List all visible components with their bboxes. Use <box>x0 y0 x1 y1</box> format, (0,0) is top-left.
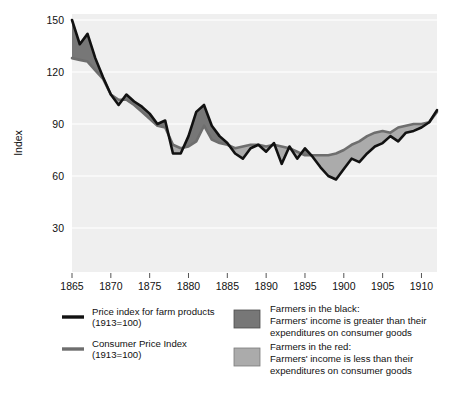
x-tick-label-1910: 1910 <box>410 280 434 292</box>
legend-label-farm-products-line1: Price index for farm products <box>92 306 215 317</box>
legend-label-farm-products-line2: (1913=100) <box>92 317 141 328</box>
x-tick-label-1890: 1890 <box>254 280 278 292</box>
legend-desc-farmers-in-the-red-line2: expenditures on consumer goods <box>270 365 412 376</box>
y-axis-label: Index <box>12 129 24 155</box>
y-tick-label-90: 90 <box>52 118 64 130</box>
legend-title-farmers-in-the-red: Farmers in the red: <box>270 341 351 352</box>
y-tick-label-30: 30 <box>52 222 64 234</box>
legend-desc-farmers-in-the-red-line1: Farmers' income is less than their <box>270 353 414 364</box>
legend-label-cpi-line1: Consumer Price Index <box>92 338 187 349</box>
legend-desc-farmers-in-the-black-line1: Farmers' income is greater than their <box>270 315 427 326</box>
x-tick-label-1880: 1880 <box>177 280 201 292</box>
x-tick-label-1885: 1885 <box>216 280 240 292</box>
y-tick-label-120: 120 <box>46 66 64 78</box>
x-tick-label-1895: 1895 <box>293 280 317 292</box>
legend-desc-farmers-in-the-black-line2: expenditures on consumer goods <box>270 327 412 338</box>
x-tick-label-1870: 1870 <box>99 280 123 292</box>
x-tick-label-1905: 1905 <box>371 280 395 292</box>
y-tick-label-150: 150 <box>46 14 64 26</box>
legend-swatch-farmers-in-the-black <box>234 310 260 328</box>
legend-title-farmers-in-the-black: Farmers in the black: <box>270 303 360 314</box>
farm-price-index-chart: 306090120150 186518701875188018851890189… <box>0 0 456 401</box>
legend-label-cpi-line2: (1913=100) <box>92 349 141 360</box>
legend-swatch-farmers-in-the-red <box>234 348 260 366</box>
x-tick-label-1900: 1900 <box>332 280 356 292</box>
x-tick-label-1875: 1875 <box>138 280 162 292</box>
y-tick-label-60: 60 <box>52 170 64 182</box>
x-tick-label-1865: 1865 <box>60 280 84 292</box>
